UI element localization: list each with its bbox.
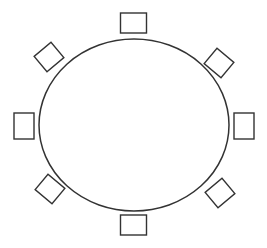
seating-diagram <box>0 0 267 248</box>
chair-left <box>14 113 34 139</box>
chair-top-right <box>204 48 234 77</box>
chair-bottom-right <box>205 178 235 207</box>
chair-top-left <box>34 42 64 71</box>
chair-right <box>234 113 254 139</box>
chair-bottom <box>121 215 147 235</box>
chairs-group <box>14 13 254 235</box>
round-table <box>39 39 229 211</box>
chair-top <box>121 13 147 33</box>
